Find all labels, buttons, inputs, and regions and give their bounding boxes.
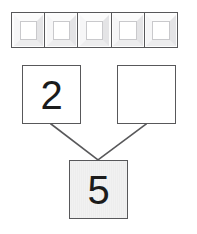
whole-value: 5 (87, 170, 109, 210)
cube-inner-face (119, 21, 136, 40)
cube-inner-face (53, 21, 70, 40)
whole-box[interactable]: 5 (69, 160, 128, 219)
unit-cube-5[interactable] (144, 12, 178, 48)
worksheet-canvas: 2 5 (0, 0, 197, 234)
unit-cube-2[interactable] (44, 12, 78, 48)
unit-cube-1[interactable] (11, 12, 45, 48)
cube-inner-face (86, 21, 103, 40)
unit-cube-row (11, 12, 183, 48)
part-left-box[interactable]: 2 (22, 65, 81, 124)
left-branch-line (51, 124, 98, 160)
part-left-value: 2 (40, 75, 62, 115)
unit-cube-3[interactable] (77, 12, 111, 48)
part-right-box[interactable] (117, 65, 176, 124)
cube-inner-face (20, 21, 37, 40)
cube-inner-face (152, 21, 169, 40)
unit-cube-4[interactable] (111, 12, 145, 48)
right-branch-line (98, 124, 146, 160)
